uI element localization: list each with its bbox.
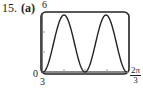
x-max-denominator: 3 xyxy=(130,76,141,85)
graph-window xyxy=(40,11,130,75)
y-min-label: 0 xyxy=(33,68,38,79)
x-min-label: 3 xyxy=(40,76,45,87)
sine-curve xyxy=(43,15,127,72)
x-max-label: 2π 3 xyxy=(130,66,141,85)
y-max-label: 6 xyxy=(42,0,47,10)
problem-number: 15. xyxy=(2,1,17,16)
part-label: (a) xyxy=(21,1,35,16)
